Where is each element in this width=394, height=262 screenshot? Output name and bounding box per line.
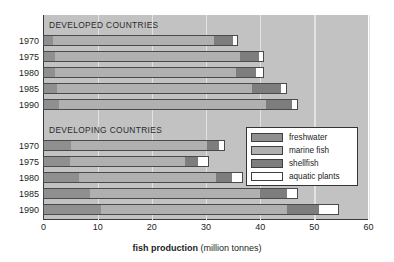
bar-segment-shellfish [252, 84, 281, 93]
bar-segment-freshwater [44, 157, 70, 166]
bar-segment-freshwater [44, 141, 72, 150]
bar-segment-aquatic-plants [219, 141, 224, 150]
y-axis-labels: 1970197519801985199019701975198019851990 [0, 15, 39, 220]
bar-segment-marine-fish [71, 141, 207, 150]
bar-segment-shellfish [185, 157, 198, 166]
bar-segment-shellfish [216, 173, 232, 182]
x-tick-30: 30 [201, 222, 211, 232]
legend-swatch-aquatic-plants-icon [251, 172, 283, 181]
bar-segment-freshwater [44, 84, 58, 93]
bar-segment-shellfish [236, 68, 256, 77]
x-tick-0: 0 [41, 222, 46, 232]
legend: freshwatermarine fishshellfishaquatic pl… [246, 127, 358, 186]
legend-swatch-shellfish-icon [251, 159, 283, 168]
bar-segment-freshwater [44, 100, 60, 109]
chart-root: DEVELOPED COUNTRIES DEVELOPING COUNTRIES… [0, 0, 394, 262]
x-axis-title-main: fish production [132, 243, 198, 253]
bar-segment-freshwater [44, 36, 54, 45]
bar-segment-shellfish [214, 36, 233, 45]
bar-developed-countries-1970 [44, 36, 237, 45]
legend-swatch-marine-fish-icon [251, 146, 283, 155]
bar-segment-shellfish [240, 52, 259, 61]
y-label-developing-countries-1975: 1975 [1, 158, 39, 167]
y-label-developed-countries-1985: 1985 [1, 85, 39, 94]
bar-segment-shellfish [207, 141, 219, 150]
bar-developed-countries-1980 [44, 68, 263, 77]
y-label-developing-countries-1985: 1985 [1, 190, 39, 199]
bar-segment-aquatic-plants [233, 36, 237, 45]
y-label-developed-countries-1970: 1970 [1, 37, 39, 46]
bar-developing-countries-1980 [44, 173, 243, 182]
bar-developed-countries-1975 [44, 52, 264, 61]
y-label-developed-countries-1980: 1980 [1, 69, 39, 78]
bar-segment-freshwater [44, 173, 80, 182]
y-label-developed-countries-1975: 1975 [1, 53, 39, 62]
legend-label-shellfish: shellfish [289, 159, 319, 168]
bar-segment-marine-fish [101, 205, 287, 214]
bar-segment-aquatic-plants [292, 100, 297, 109]
bar-developing-countries-1985 [44, 189, 297, 198]
legend-item-shellfish[interactable]: shellfish [251, 157, 353, 169]
bar-segment-freshwater [44, 68, 56, 77]
y-label-developing-countries-1990: 1990 [1, 206, 39, 215]
bar-segment-freshwater [44, 205, 101, 214]
legend-item-marine-fish[interactable]: marine fish [251, 144, 353, 156]
bar-segment-shellfish [287, 205, 318, 214]
x-tick-10: 10 [93, 222, 103, 232]
bar-segment-freshwater [44, 189, 90, 198]
bar-segment-aquatic-plants [281, 84, 286, 93]
y-label-developing-countries-1970: 1970 [1, 142, 39, 151]
bar-developed-countries-1990 [44, 100, 297, 109]
x-tick-60: 60 [363, 222, 373, 232]
legend-item-freshwater[interactable]: freshwater [251, 131, 353, 143]
gridline-60 [369, 15, 370, 220]
bar-segment-aquatic-plants [232, 173, 242, 182]
group-caption-developing: DEVELOPING COUNTRIES [49, 125, 162, 135]
bar-segment-marine-fish [59, 100, 265, 109]
x-axis-title-unit: (million tonnes) [200, 243, 261, 253]
y-label-developed-countries-1990: 1990 [1, 101, 39, 110]
gridline-50 [314, 15, 315, 220]
bar-segment-marine-fish [70, 157, 186, 166]
y-label-developing-countries-1980: 1980 [1, 174, 39, 183]
x-tick-50: 50 [309, 222, 319, 232]
bar-segment-freshwater [44, 52, 55, 61]
bar-segment-aquatic-plants [198, 157, 208, 166]
legend-swatch-freshwater-icon [251, 133, 283, 142]
x-tick-40: 40 [255, 222, 265, 232]
bar-segment-marine-fish [79, 173, 216, 182]
group-caption-developed: DEVELOPED COUNTRIES [49, 20, 159, 30]
bar-developing-countries-1970 [44, 141, 224, 150]
bar-segment-marine-fish [90, 189, 261, 198]
bar-segment-aquatic-plants [259, 52, 264, 61]
bar-segment-marine-fish [55, 68, 236, 77]
x-tick-20: 20 [147, 222, 157, 232]
bar-developing-countries-1975 [44, 157, 209, 166]
x-axis-ticks: 0102030405060 [0, 222, 394, 236]
bar-segment-aquatic-plants [319, 205, 338, 214]
legend-label-aquatic-plants: aquatic plants [289, 172, 340, 181]
legend-label-freshwater: freshwater [289, 133, 327, 142]
bar-segment-shellfish [260, 189, 287, 198]
bar-developing-countries-1990 [44, 205, 338, 214]
x-axis-title: fish production (million tonnes) [0, 243, 394, 253]
bar-segment-marine-fish [57, 84, 252, 93]
bar-developed-countries-1985 [44, 84, 286, 93]
bar-segment-aquatic-plants [256, 68, 263, 77]
legend-item-aquatic-plants[interactable]: aquatic plants [251, 170, 353, 182]
legend-label-marine-fish: marine fish [289, 146, 329, 155]
bar-segment-aquatic-plants [287, 189, 297, 198]
bar-segment-marine-fish [53, 36, 213, 45]
bar-segment-marine-fish [55, 52, 240, 61]
bar-segment-shellfish [266, 100, 293, 109]
